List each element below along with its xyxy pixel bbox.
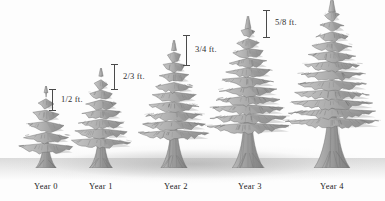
measure-cap-top xyxy=(183,35,190,36)
illustration-canvas: 1/2 ft.2/3 ft.3/4 ft.5/8 ft. Year 0Year … xyxy=(0,0,385,201)
measure-label-0: 1/2 ft. xyxy=(61,94,83,104)
year-label-0: Year 0 xyxy=(18,181,74,191)
measure-bar-line xyxy=(114,64,115,90)
measure-label-3: 5/8 ft. xyxy=(275,17,297,27)
measure-cap-bottom xyxy=(183,65,190,66)
tree-year-3 xyxy=(205,16,291,168)
measure-bar-line xyxy=(266,10,267,38)
measure-cap-top xyxy=(49,89,56,90)
measure-five-eighths-foot: 5/8 ft. xyxy=(266,10,267,38)
measure-label-1: 2/3 ft. xyxy=(123,71,145,81)
measure-cap-top xyxy=(263,10,270,11)
measure-two-thirds-foot: 2/3 ft. xyxy=(114,64,115,90)
measure-bar-line xyxy=(186,35,187,66)
measure-three-quarters-foot: 3/4 ft. xyxy=(186,35,187,66)
measure-bar-line xyxy=(52,89,53,111)
tree-year-2 xyxy=(138,40,210,168)
measure-cap-bottom xyxy=(111,89,118,90)
year-label-4: Year 4 xyxy=(289,181,375,191)
tree-year-1 xyxy=(70,68,132,168)
year-label-1: Year 1 xyxy=(70,181,132,191)
year-label-3: Year 3 xyxy=(209,181,291,191)
measure-cap-bottom xyxy=(263,37,270,38)
measure-label-2: 3/4 ft. xyxy=(195,44,217,54)
measure-cap-bottom xyxy=(49,110,56,111)
measure-cap-top xyxy=(111,64,118,65)
measure-half-foot: 1/2 ft. xyxy=(52,89,53,111)
tree-year-4 xyxy=(283,0,381,168)
year-label-2: Year 2 xyxy=(140,181,212,191)
